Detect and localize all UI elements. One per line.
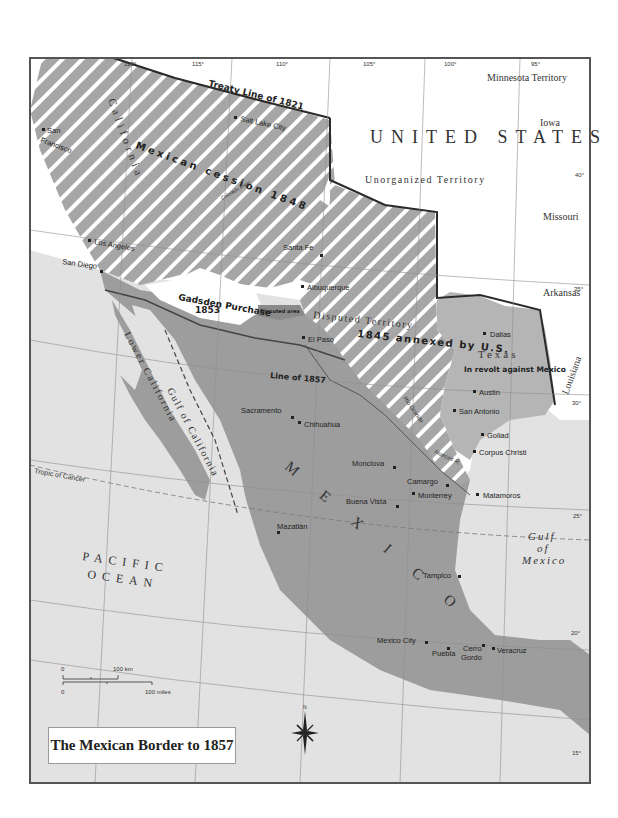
label-united-states: UNITED STATES [370,127,608,147]
lon-115: 115° [192,61,205,67]
map-title-box: The Mexican Border to 1857 [48,727,236,764]
label-gulf-mexico-1: Gulf [528,530,556,542]
label-minnesota: Minnesota Territory [487,72,567,83]
city-veracruz: Veracruz [492,646,527,655]
city-san-antonio: San Antonio [453,407,499,416]
svg-text:Camargo: Camargo [407,477,438,486]
svg-text:Monterrey: Monterrey [418,491,452,500]
label-texas-revolt: In revolt against Mexico [464,365,566,374]
svg-text:Mexico City: Mexico City [377,636,416,645]
city-chihuahua: Chihuahua [298,420,341,429]
label-gulf-mexico-2: of [537,542,550,554]
svg-text:Mazatlán: Mazatlán [277,522,307,531]
svg-text:Chihuahua: Chihuahua [304,420,341,429]
svg-text:Corpus Christi: Corpus Christi [479,448,527,457]
svg-text:Austin: Austin [479,388,500,397]
label-gadsden-year: 1853 [195,305,220,315]
svg-text:Cerro: Cerro [463,644,482,653]
label-missouri: Missouri [543,211,579,222]
lat-30: 30° [572,400,582,406]
svg-text:Goliad: Goliad [487,431,509,440]
city-corpus-christi: Corpus Christi [473,448,527,457]
svg-text:Tampico: Tampico [423,571,451,580]
svg-text:Santa Fe: Santa Fe [283,243,313,252]
lon-120: 120° [124,61,137,67]
svg-text:El Paso: El Paso [308,335,334,344]
map-title: The Mexican Border to 1857 [50,737,233,754]
city-puebla: Puebla [432,647,456,658]
svg-text:Gordo: Gordo [461,653,482,662]
label-gulf-mexico-3: Mexico [521,554,566,566]
lat-35: 35° [574,286,584,292]
historical-map: UNITED STATES Unorganized Territory Minn… [0,0,618,818]
lat-40: 40° [575,172,585,178]
lon-110: 110° [276,61,289,67]
city-cerro-gordo: CerroGordo [461,644,485,662]
lon-105: 105° [363,61,376,67]
svg-text:Sacramento: Sacramento [241,406,281,415]
compass-north: N [303,704,307,710]
svg-text:Dallas: Dallas [490,330,511,339]
city-matamoros: Matamoros [476,491,521,500]
svg-text:Veracruz: Veracruz [497,646,527,655]
label-iowa: Iowa [540,117,561,128]
lat-20: 20° [571,630,581,636]
svg-text:Matamoros: Matamoros [483,491,521,500]
city-monterrey: Monterrey [412,491,452,500]
svg-text:San Antonio: San Antonio [459,407,499,416]
scale-mi-label: 100 miles [145,689,171,695]
label-disputed-area: Disputed area [260,308,300,315]
label-unorganized: Unorganized Territory [365,174,486,185]
svg-text:Albuquerque: Albuquerque [307,283,350,292]
svg-text:Monclova: Monclova [352,459,385,468]
lat-15: 15° [572,750,582,756]
svg-text:Buena Vista: Buena Vista [346,497,387,506]
svg-text:Puebla: Puebla [432,649,456,658]
city-albuquerque: Albuquerque [301,283,350,292]
svg-text:San: San [47,126,60,135]
scale-km-label: 100 km [113,666,133,672]
lon-95: 95° [531,61,541,67]
lon-100: 100° [444,61,457,67]
lat-25: 25° [573,513,583,519]
